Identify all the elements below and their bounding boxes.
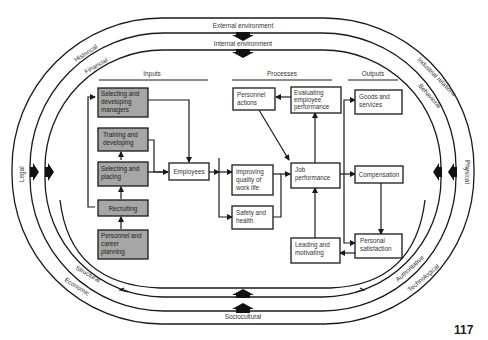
arrow-left-icon	[433, 163, 457, 181]
svg-text:Compensation: Compensation	[359, 171, 400, 179]
personnel-management-diagram: External environment Internal environmen…	[0, 0, 488, 340]
svg-text:Training anddeveloping: Training anddeveloping	[103, 131, 138, 147]
legal-label: Legal	[18, 166, 26, 182]
process-box-evaluating-employee-performance: Evaluatingemployeeperformance	[291, 87, 341, 113]
track-arrow-right	[356, 288, 364, 292]
output-box-compensation: Compensation	[355, 166, 403, 183]
process-box-leading-motivating: Leading andmotivating	[291, 238, 340, 263]
internal-environment-label: Internal environment	[214, 40, 272, 47]
sociocultural-label: Sociocultural	[225, 313, 262, 320]
input-box-selecting-placing: Selecting andplacing	[98, 162, 148, 186]
output-box-personal-satisfaction: Personalsatisfaction	[355, 234, 402, 258]
svg-text:Employees: Employees	[173, 168, 204, 176]
inputs-header: Inputs	[143, 70, 160, 78]
input-box-personnel-career-planning: Personnel andcareerplanning	[98, 230, 148, 259]
page-number: 117	[454, 323, 473, 337]
process-box-safety-health: Safety andhealth	[232, 206, 273, 229]
behavioral-label: Behavioral	[417, 82, 442, 109]
input-box-training-developing: Training anddeveloping	[98, 128, 148, 151]
process-box-improving-quality-work-life: Improvingquality ofwork life	[232, 165, 273, 195]
arrow-up-icon	[232, 289, 254, 313]
outputs-header: Outputs	[362, 70, 384, 78]
process-box-personnel-actions: Personnelactions	[233, 88, 275, 110]
process-box-job-performance: Jobperformance	[291, 163, 340, 188]
arrow-right-icon	[30, 163, 54, 181]
processes-header: Processes	[267, 70, 297, 77]
external-environment-label: External environment	[213, 22, 274, 29]
center-box-employees: Employees	[169, 163, 209, 180]
svg-text:Recruiting: Recruiting	[109, 205, 138, 213]
output-box-goods-services: Goods andservices	[355, 90, 402, 114]
input-box-selecting-developing-managers: Selecting anddevelopingmanagers	[98, 88, 148, 117]
physical-label: Physical	[463, 160, 471, 184]
input-box-recruiting: Recruiting	[98, 200, 148, 216]
